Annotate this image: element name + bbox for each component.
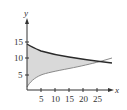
x-tick-label-25: 25 (93, 94, 103, 104)
y-axis-label: y (23, 8, 28, 18)
y-tick-label-15: 15 (14, 37, 24, 47)
x-tick-label-10: 10 (51, 94, 61, 104)
x-tick-label-5: 5 (39, 94, 44, 104)
y-axis-arrow-icon (25, 18, 29, 24)
x-tick-label-20: 20 (79, 94, 89, 104)
x-axis-label: x (114, 85, 119, 95)
x-tick-label-15: 15 (65, 94, 75, 104)
y-tick-label-10: 10 (14, 53, 24, 63)
y-tick-label-5: 5 (18, 70, 23, 80)
x-axis-arrow-icon (108, 88, 114, 92)
region-between-curves-chart: y x 15 10 5 5 10 15 20 25 (0, 0, 127, 110)
